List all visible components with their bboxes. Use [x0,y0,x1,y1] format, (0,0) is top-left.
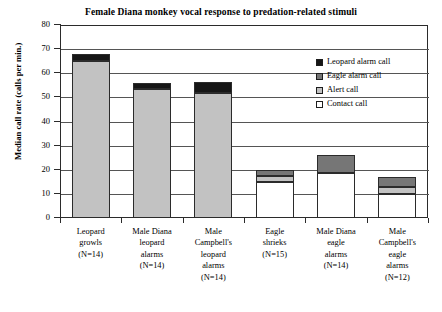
x-axis-label-2: Male Dianaleopardalarms(N=14) [121,226,182,272]
bar-3-segment-alert [194,93,232,218]
x-tick-4 [305,218,306,223]
plot-area [60,25,428,218]
y-tick-20 [54,169,61,170]
x-axis-label-line: (N=12) [367,272,428,283]
x-axis-label-line: Campbell's [183,237,244,248]
x-axis-label-line: Campbell's [367,237,428,248]
y-axis-line [60,25,61,219]
bar-6-segment-eagle [378,177,416,187]
x-axis-label-line: (N=15) [244,249,305,260]
x-axis-label-line: (N=14) [121,260,182,271]
legend-item-1: Leopard alarm call [316,56,390,69]
bar-4-segment-alert [256,176,294,182]
bar-3 [194,82,232,218]
x-axis-label-line: growls [60,237,121,248]
x-tick-5 [367,218,368,223]
legend-label: Leopard alarm call [327,58,390,66]
legend-label: Alert call [327,86,358,94]
bar-6 [378,177,416,218]
chart-container: Female Diana monkey vocal response to pr… [0,0,442,312]
y-tick-70 [54,48,61,49]
y-tick-label-30: 30 [24,141,50,150]
bar-1-segment-alert [72,61,110,218]
bar-5-segment-eagle [317,155,355,173]
gridline-40 [61,122,429,123]
x-axis-label-line: alarms [121,249,182,260]
bar-3-segment-leopard [194,82,232,93]
chart-title: Female Diana monkey vocal response to pr… [0,6,442,18]
y-axis-title: Median call rate (calls per min.) [13,31,24,171]
x-axis-label-line: Male Diana [305,226,366,237]
legend-label: Eagle alarm call [327,72,381,80]
legend-swatch-icon [316,87,323,94]
y-tick-30 [54,145,61,146]
x-axis-label-line: Male Diana [121,226,182,237]
x-axis-label-line: alarms [305,249,366,260]
x-axis-label-5: Male Dianaeaglealarms(N=14) [305,226,366,272]
bar-6-segment-contact [378,194,416,218]
bar-2-segment-alert [133,89,171,218]
chart-legend: Leopard alarm callEagle alarm callAlert … [316,56,390,112]
legend-swatch-icon [316,59,323,66]
x-axis-label-line: leopard [183,249,244,260]
legend-item-2: Eagle alarm call [316,70,390,83]
x-tick-2 [183,218,184,223]
gridline-20 [61,170,429,171]
y-tick-label-80: 80 [24,20,50,29]
bar-5 [317,155,355,218]
y-tick-10 [54,193,61,194]
x-axis-label-line: leopard [121,237,182,248]
y-tick-50 [54,96,61,97]
bar-2 [133,83,171,218]
x-axis-label-line: Eagle [244,226,305,237]
y-tick-label-10: 10 [24,189,50,198]
bar-2-segment-leopard [133,83,171,89]
y-tick-60 [54,72,61,73]
x-axis-label-line: eagle [367,249,428,260]
bar-1 [72,54,110,218]
x-axis-label-line: (N=14) [305,260,366,271]
x-axis-label-3: MaleCampbell'sleopardalarms(N=14) [183,226,244,283]
x-tick-6 [428,218,429,223]
x-axis-label-line: shrieks [244,237,305,248]
x-axis-label-line: Leopard [60,226,121,237]
legend-swatch-icon [316,73,323,80]
x-axis-label-line: Male [183,226,244,237]
y-tick-40 [54,121,61,122]
x-axis-label-1: Leopardgrowls(N=14) [60,226,121,260]
legend-item-4: Contact call [316,98,390,111]
gridline-30 [61,146,429,147]
y-tick-80 [54,24,61,25]
bar-4-segment-contact [256,182,294,218]
x-axis-label-6: MaleCampbell'seaglealarms(N=12) [367,226,428,283]
x-axis-label-line: (N=14) [183,272,244,283]
bar-1-segment-leopard [72,54,110,61]
x-axis-label-line: eagle [305,237,366,248]
x-tick-3 [244,218,245,223]
bar-4-segment-eagle [256,170,294,176]
legend-label: Contact call [327,100,367,108]
gridline-10 [61,194,429,195]
bar-6-segment-alert [378,187,416,194]
x-axis-label-line: (N=14) [60,249,121,260]
x-axis-label-line: Male [367,226,428,237]
legend-swatch-icon [316,101,323,108]
x-axis-label-4: Eagleshrieks(N=15) [244,226,305,260]
bar-4 [256,170,294,218]
y-tick-label-70: 70 [24,44,50,53]
gridline-70 [61,49,429,50]
x-tick-0 [60,218,61,223]
y-tick-label-40: 40 [24,117,50,126]
x-axis-label-line: alarms [183,260,244,271]
y-tick-label-0: 0 [24,213,50,222]
bar-5-segment-contact [317,173,355,218]
legend-item-3: Alert call [316,84,390,97]
y-tick-label-20: 20 [24,165,50,174]
x-axis-label-line: alarms [367,260,428,271]
x-tick-1 [121,218,122,223]
y-tick-label-50: 50 [24,92,50,101]
y-tick-label-60: 60 [24,68,50,77]
